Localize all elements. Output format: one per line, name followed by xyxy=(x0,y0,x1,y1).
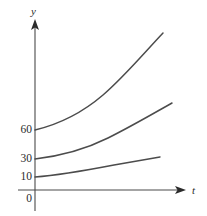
y-tick-label-30: 30 xyxy=(21,152,33,164)
figure-container: 60 30 10 0 y t xyxy=(0,0,207,216)
x-axis-label: t xyxy=(192,184,196,196)
curve-upper xyxy=(35,33,163,130)
curve-middle xyxy=(35,103,172,159)
y-axis-label: y xyxy=(30,5,36,17)
y-tick-label-60: 60 xyxy=(21,123,33,135)
y-tick-label-0: 0 xyxy=(26,192,32,204)
y-tick-label-10: 10 xyxy=(21,170,33,182)
exponential-growth-chart: 60 30 10 0 y t xyxy=(0,0,207,216)
curve-lower xyxy=(35,157,160,177)
